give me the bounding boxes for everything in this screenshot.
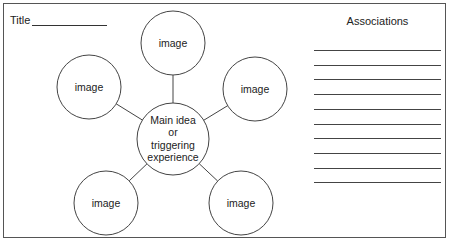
connector-lower-right (199, 164, 217, 181)
node-label-lower-right: image (227, 197, 256, 209)
association-line (314, 182, 441, 183)
association-line (314, 94, 441, 95)
node-label-lower-left: image (92, 197, 121, 209)
web-diagram (0, 0, 450, 241)
association-line (314, 168, 441, 169)
center-idea-label: Main idea or triggering experience (147, 114, 198, 164)
connector-lower-left (129, 164, 147, 181)
association-line (314, 79, 441, 80)
node-label-top: image (159, 37, 188, 49)
node-label-upper-right: image (241, 83, 270, 95)
association-line (314, 50, 441, 51)
associations-heading: Associations (314, 15, 441, 27)
association-line (314, 153, 441, 154)
center-label-line-4: experience (147, 151, 198, 163)
association-line (314, 138, 441, 139)
association-line (314, 124, 441, 125)
connector-upper-left (116, 104, 142, 120)
node-label-upper-left: image (75, 81, 104, 93)
center-label-line-1: Main idea (147, 114, 198, 126)
center-label-line-2: or (147, 127, 198, 139)
center-label-line-3: triggering (147, 139, 198, 151)
association-line (314, 109, 441, 110)
association-line (314, 65, 441, 66)
connector-upper-right (204, 106, 228, 121)
